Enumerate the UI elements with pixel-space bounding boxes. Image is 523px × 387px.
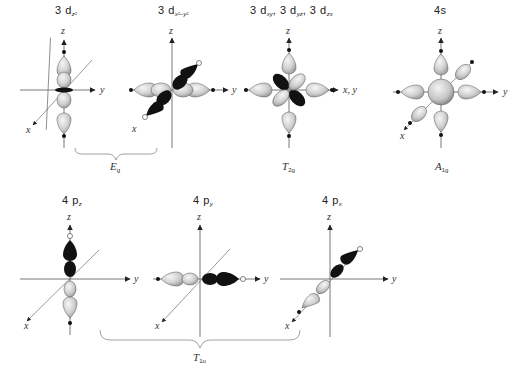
axis-x-label: x: [132, 123, 136, 134]
axis-y-label: y: [392, 273, 396, 284]
axis-y-label: y: [264, 273, 268, 284]
axis-z-label: z: [61, 25, 65, 36]
symmetry-label-a1g: A1g: [435, 160, 448, 173]
label-4py: 4 py: [193, 194, 213, 207]
orbital-4s-diagram: [393, 38, 498, 148]
orbital-3dx2y2-diagram: [129, 38, 228, 148]
axis-z-label: z: [286, 25, 290, 36]
axis-x-label: x: [155, 320, 159, 331]
axis-y-label: y: [134, 273, 138, 284]
axis-y-label: y: [100, 84, 104, 95]
eg-brace: [75, 148, 157, 160]
label-3dxy-yz-zx: 3 dxy, 3 dyz, 3 dzx: [250, 4, 333, 17]
axis-z-label: z: [327, 211, 331, 222]
label-4px: 4 px: [322, 194, 342, 207]
axis-x-label: x: [285, 320, 289, 331]
axis-x-label: x: [26, 124, 30, 135]
axis-x-label: x: [400, 130, 404, 141]
orbital-3dz2-diagram: [20, 38, 95, 148]
axis-z-label: z: [197, 211, 201, 222]
axis-xy-label: x, y: [343, 84, 357, 95]
axis-z-label: z: [67, 211, 71, 222]
orbital-4pz-diagram: [20, 225, 130, 335]
label-3dx2y2: 3 dx²−y²: [158, 4, 188, 17]
symmetry-label-eg: Eg: [110, 160, 120, 173]
label-3dz2: 3 dz²: [55, 4, 77, 17]
axis-y-label: y: [232, 84, 236, 95]
axis-y-label: y: [503, 86, 507, 97]
symmetry-label-t2g: T2g: [282, 160, 295, 173]
axis-x-label: x: [24, 320, 28, 331]
label-4s: 4s: [434, 4, 447, 16]
orbital-3dxy-yz-zx-diagram: [244, 38, 338, 148]
orbital-4py-diagram: [153, 225, 260, 337]
orbital-4px-diagram: [280, 225, 388, 337]
axis-z-label: z: [438, 25, 442, 36]
label-4pz: 4 pz: [62, 194, 82, 207]
symmetry-label-t1u: T1u: [193, 351, 206, 364]
axis-z-label: z: [169, 25, 173, 36]
